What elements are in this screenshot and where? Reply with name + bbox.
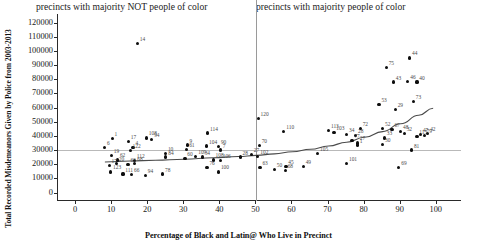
- y-tick-label: 120000: [8, 18, 53, 27]
- x-tick-label: 0: [60, 205, 90, 214]
- x-tick-mark: [147, 201, 148, 204]
- data-point-label: 27: [254, 147, 259, 153]
- y-tick-mark: [54, 136, 57, 137]
- data-point-label: 69: [401, 160, 406, 166]
- plot-area: 1411410894117691049041912210846171093460…: [57, 14, 461, 201]
- x-tick-label: 20: [132, 205, 162, 214]
- data-point: [273, 168, 276, 171]
- y-tick-mark: [54, 51, 57, 52]
- data-point-label: 52: [385, 121, 390, 127]
- data-point-label: 110: [286, 124, 294, 130]
- data-point: [415, 135, 418, 138]
- data-point-label: 28: [243, 150, 248, 156]
- data-point-label: 32: [407, 126, 412, 132]
- x-tick-label: 50: [240, 205, 270, 214]
- data-point-label: 101: [349, 156, 357, 162]
- data-point: [239, 155, 242, 158]
- y-tick-mark: [54, 164, 57, 165]
- data-point: [205, 144, 208, 147]
- y-tick-label: 20000: [8, 159, 53, 168]
- y-tick-mark: [54, 79, 57, 80]
- data-point: [284, 169, 287, 172]
- scatter-chart: precincts with majority NOT people of co…: [0, 0, 477, 245]
- y-tick-label: 50000: [8, 117, 53, 126]
- data-point-label: 76: [209, 160, 214, 166]
- data-point: [201, 155, 204, 158]
- data-point: [219, 148, 222, 151]
- data-point-label: 20: [119, 156, 124, 162]
- data-point: [302, 165, 305, 168]
- data-point-label: 45: [288, 159, 293, 165]
- data-point: [415, 80, 418, 83]
- data-point-label: 94: [148, 168, 153, 174]
- data-point: [284, 165, 287, 168]
- data-point-label: 60: [187, 151, 192, 157]
- x-tick-label: 60: [276, 205, 306, 214]
- x-tick-mark: [183, 201, 184, 204]
- data-point: [145, 136, 148, 139]
- data-point-label: 68: [137, 156, 142, 162]
- data-point-label: 34: [205, 150, 210, 156]
- data-point: [217, 170, 220, 173]
- data-point: [377, 103, 380, 106]
- x-tick-label: 100: [421, 205, 451, 214]
- data-point-label: 14: [140, 36, 145, 42]
- data-point-label: 40: [419, 75, 424, 81]
- y-tick-label: 110000: [8, 32, 53, 41]
- data-point-label: 81: [414, 143, 419, 149]
- y-tick-mark: [54, 193, 57, 194]
- data-point: [183, 157, 186, 160]
- data-point-label: 103: [336, 125, 344, 131]
- data-point-label: 7: [223, 143, 226, 149]
- data-point: [410, 148, 413, 151]
- x-tick-mark: [364, 201, 365, 204]
- data-point-label: 6: [107, 140, 110, 146]
- data-point-label: 111: [125, 167, 133, 173]
- data-point-label: 75: [389, 60, 394, 66]
- data-point-label: 102: [260, 149, 268, 155]
- data-point: [144, 174, 147, 177]
- y-tick-mark: [54, 23, 57, 24]
- data-point: [258, 166, 261, 169]
- data-point-label: 67: [394, 122, 399, 128]
- data-point: [327, 129, 330, 132]
- data-point: [392, 80, 395, 83]
- x-tick-label: 70: [313, 205, 343, 214]
- data-point-label: 30: [385, 137, 390, 143]
- y-tick-label: 60000: [8, 103, 53, 112]
- data-point-label: 94: [154, 132, 159, 138]
- data-point-label: 33: [387, 130, 392, 136]
- data-point-label: 106: [223, 153, 231, 159]
- data-point-label: 72: [363, 121, 368, 127]
- data-point-label: 29: [398, 102, 403, 108]
- x-tick-mark: [436, 201, 437, 204]
- y-tick-label: 10000: [8, 173, 53, 182]
- x-tick-mark: [111, 201, 112, 204]
- y-tick-label: 90000: [8, 60, 53, 69]
- data-point-label: 104: [209, 139, 217, 145]
- y-tick-mark: [54, 150, 57, 151]
- data-point-label: 1: [115, 131, 118, 137]
- x-tick-mark: [291, 201, 292, 204]
- x-tick-mark: [328, 201, 329, 204]
- x-tick-mark: [400, 201, 401, 204]
- data-point: [111, 137, 114, 140]
- data-point-label: 1: [360, 138, 363, 144]
- data-point: [206, 131, 209, 134]
- data-point-label: 70: [262, 138, 267, 144]
- data-point-label: 50: [277, 162, 282, 168]
- data-point-label: 44: [412, 50, 417, 56]
- data-point: [250, 153, 253, 156]
- x-tick-label: 40: [204, 205, 234, 214]
- data-point-label: 120: [261, 111, 269, 117]
- data-point-label: 66: [134, 167, 139, 173]
- y-tick-mark: [54, 37, 57, 38]
- data-point-label: 84: [168, 150, 173, 156]
- data-point-label: 105: [320, 146, 328, 152]
- plot-inner: 1411410894117691049041912210846171093460…: [58, 14, 461, 200]
- y-tick-label: 30000: [8, 145, 53, 154]
- data-point-label: 63: [262, 160, 267, 166]
- data-point-label: 34: [349, 127, 354, 133]
- data-point-label: 17: [112, 158, 117, 164]
- data-point-label: 78: [165, 167, 170, 173]
